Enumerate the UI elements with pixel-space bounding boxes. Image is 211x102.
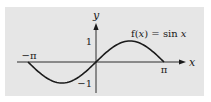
x-tick-pi: π [161,64,168,75]
sine-graph-canvas: y x −π π 1 −1 f(x) = sin x [0,0,211,102]
y-axis-label: y [92,9,100,22]
x-tick-minus-pi: −π [22,50,37,61]
function-label: f(x) = sin x [131,28,187,39]
y-tick-minus-1: −1 [77,78,92,89]
x-axis-label: x [189,56,196,69]
sine-graph-figure: y x −π π 1 −1 f(x) = sin x [0,0,211,102]
y-tick-1: 1 [86,36,92,47]
